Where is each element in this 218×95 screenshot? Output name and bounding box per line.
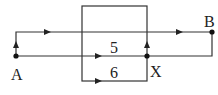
arrow-up-icon <box>144 41 150 48</box>
path-diagram: A X B 5 6 <box>0 0 218 95</box>
arrow-right-icon <box>95 78 102 84</box>
node-b-dot <box>209 29 214 34</box>
node-x-dot <box>144 53 149 58</box>
arrow-right-icon <box>44 29 51 35</box>
label-x: X <box>150 63 162 80</box>
arrow-up-icon <box>13 41 19 48</box>
node-a-dot <box>13 53 18 58</box>
label-5: 5 <box>110 39 118 56</box>
diagram-canvas: A X B 5 6 <box>0 0 218 95</box>
arrow-right-icon <box>95 53 102 59</box>
label-a: A <box>11 66 23 83</box>
label-b: B <box>204 13 215 30</box>
arrow-right-icon <box>176 29 183 35</box>
label-6: 6 <box>110 64 118 81</box>
